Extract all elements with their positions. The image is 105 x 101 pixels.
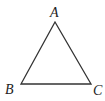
vertex-label-b: B [5, 82, 14, 97]
triangle-diagram: A B C [0, 0, 105, 101]
vertex-label-a: A [49, 5, 59, 20]
vertex-label-c: C [93, 83, 103, 98]
triangle-abc [21, 22, 91, 84]
